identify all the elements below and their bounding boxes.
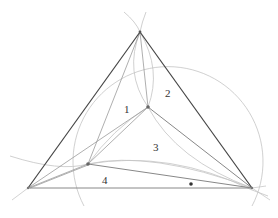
marker-dot: [189, 182, 193, 186]
point-bottom-right: [251, 187, 253, 189]
point-apex: [139, 31, 142, 34]
line-p2-bottom-right: [88, 164, 252, 188]
line-p2-bottom-left-2: [30, 165, 88, 188]
point-p2: [86, 162, 90, 166]
arc-p2-right: [88, 160, 252, 188]
region-label-4: 4: [102, 174, 108, 186]
line-apex-p2: [88, 32, 140, 164]
region-label-3: 3: [153, 141, 159, 153]
arc-top-extension: [124, 12, 146, 32]
arc-left-through-p2: [10, 156, 268, 196]
region-label-2: 2: [165, 87, 171, 99]
extension-bottom-right: [252, 188, 270, 200]
point-bottom-left: [27, 187, 29, 189]
line-p1-bottom-left: [28, 107, 148, 188]
line-p1-bottom-right: [148, 107, 252, 188]
extension-bottom-left: [12, 188, 28, 200]
region-label-1: 1: [124, 103, 130, 115]
line-p1-p2: [88, 107, 148, 164]
triangle-right-side: [140, 32, 252, 188]
point-p1: [146, 105, 150, 109]
geometry-diagram: 1 2 3 4: [0, 0, 278, 218]
